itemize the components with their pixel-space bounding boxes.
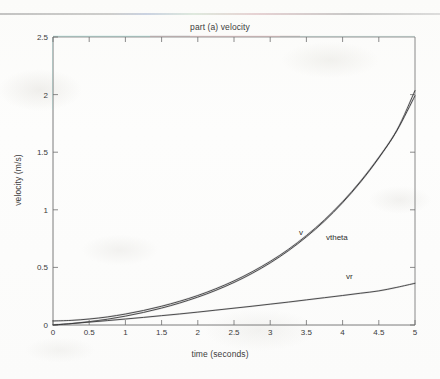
x-tick-label: 4.5	[373, 328, 384, 337]
data-curves	[53, 91, 415, 325]
y-tick-label: 1	[28, 205, 48, 214]
chart-title: part (a) velocity	[0, 22, 440, 32]
x-tick-label: 1.5	[156, 328, 167, 337]
x-axis-label: time (seconds)	[0, 349, 440, 359]
y-tick-label: 0	[28, 321, 48, 330]
y-axis-label: velocity (m/s)	[13, 140, 23, 220]
curve-vtheta	[53, 96, 415, 325]
series-label-vr: vr	[346, 272, 353, 281]
velocity-plot-figure: part (a) velocity velocity (m/s) time (s…	[0, 0, 440, 379]
curve-v	[53, 91, 415, 321]
series-label-v: v	[299, 228, 303, 237]
y-tick-label: 0.5	[28, 263, 48, 272]
y-tick-label: 2	[28, 90, 48, 99]
series-label-vtheta: vtheta	[326, 233, 348, 242]
y-tick-label: 2.5	[28, 33, 48, 42]
x-tick-label: 5	[413, 328, 417, 337]
x-tick-label: 3.5	[301, 328, 312, 337]
x-tick-label: 2	[196, 328, 200, 337]
x-tick-label: 2.5	[228, 328, 239, 337]
x-tick-label: 4	[340, 328, 344, 337]
curve-halo-vtheta	[53, 96, 415, 325]
x-tick-label: 1	[123, 328, 127, 337]
x-tick-label: 0	[51, 328, 55, 337]
x-tick-label: 3	[268, 328, 272, 337]
curve-halo-v	[53, 91, 415, 321]
y-tick-label: 1.5	[28, 148, 48, 157]
x-tick-label: 0.5	[84, 328, 95, 337]
plot-canvas	[0, 0, 440, 379]
